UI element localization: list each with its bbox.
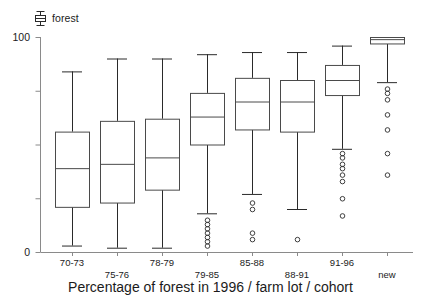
x-axis-title: Percentage of forest in 1996 / farm lot … [0,280,421,294]
outlier-point [385,151,390,156]
x-axis-tick-label-91-96: 91-96 [330,258,354,268]
x-axis-tick-label-78-79: 78-79 [150,258,174,268]
outlier-point [340,179,345,184]
box-iqr [191,93,225,145]
boxplot-88-91 [281,52,315,242]
box-iqr [371,38,405,44]
x-axis-tick-label-70-73: 70-73 [60,258,84,268]
box-iqr [56,132,90,207]
outlier-point [385,173,390,178]
boxplot-85-88 [236,52,270,242]
box-iqr [236,78,270,130]
outlier-point [340,196,345,201]
outlier-point [340,214,345,219]
boxplot-91-96 [326,46,360,219]
box-iqr [101,121,135,203]
x-axis-tick-label-85-88: 85-88 [240,258,264,268]
boxplot-79-85 [191,54,225,248]
x-axis-tick-label-new: new [378,270,395,280]
boxplot-70-73 [56,71,90,246]
boxplot-figure: forest 100 0 70-7375-7678-7979-8585-8888… [0,0,421,306]
outlier-point [340,173,345,178]
outlier-point [250,237,255,242]
boxplot-78-79 [146,59,180,249]
outlier-point [250,231,255,236]
outlier-point [385,113,390,118]
outlier-point [250,201,255,206]
boxplot-new [371,37,405,177]
outlier-point [385,98,390,103]
box-iqr [146,119,180,190]
outlier-point [250,207,255,212]
outlier-point [385,128,390,133]
box-iqr [281,81,315,133]
outlier-point [295,237,300,242]
boxplot-75-76 [101,59,135,249]
